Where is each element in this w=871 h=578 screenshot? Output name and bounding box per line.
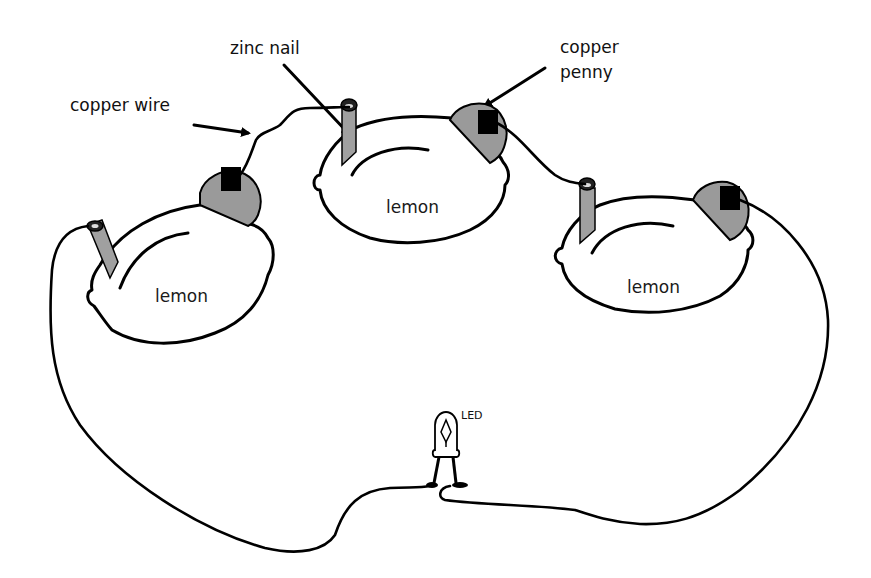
led-foot-right <box>452 482 468 488</box>
lemon-right: lemon <box>555 178 753 312</box>
zinc-nail-label: zinc nail <box>230 38 300 58</box>
copper-penny-arrow <box>485 68 545 106</box>
nail-head-left-hole <box>92 224 99 228</box>
lemon-left-highlight <box>120 233 188 288</box>
lemon-right-label: lemon <box>627 277 680 297</box>
zinc-nail-right <box>580 188 595 243</box>
lemon-left-label: lemon <box>155 286 208 306</box>
lemon-center-label: lemon <box>386 197 439 217</box>
copper-wire-right-to-led <box>440 200 828 524</box>
led-foot-left <box>426 482 438 488</box>
copper-wire-left-to-led <box>50 226 430 552</box>
copper-wire-label: copper wire <box>70 95 170 115</box>
led-leg-right <box>453 457 456 483</box>
led-label: LED <box>461 409 483 422</box>
copper-wire-arrow <box>194 125 248 133</box>
copper-penny-label-line1: copper <box>560 37 619 57</box>
lemon-center-highlight <box>352 148 428 175</box>
lemon-center: lemon <box>314 99 509 243</box>
penny-clip-left <box>221 167 241 191</box>
penny-clip-center <box>478 110 498 134</box>
led <box>426 412 468 488</box>
zinc-nail-arrow <box>284 65 349 134</box>
lemon-right-highlight <box>592 223 673 253</box>
penny-clip-right <box>720 186 740 210</box>
copper-wire-center-to-right <box>497 123 585 184</box>
lemon-left: lemon <box>87 167 273 343</box>
led-leg-left <box>434 457 439 483</box>
lemon-battery-diagram: copper wire zinc nail copper penny LED l… <box>0 0 871 578</box>
zinc-nail-center <box>342 108 356 165</box>
copper-penny-label-line2: penny <box>560 62 613 82</box>
